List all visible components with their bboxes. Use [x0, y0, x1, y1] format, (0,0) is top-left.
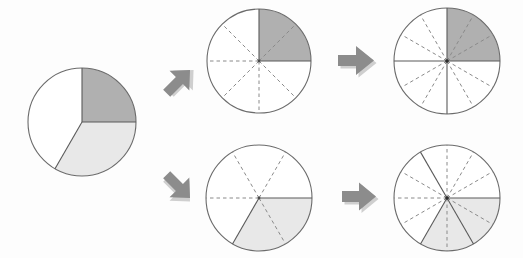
arrow-down-right-body	[157, 165, 200, 208]
top-middle-pie	[201, 3, 317, 119]
arrow-right-top-body	[338, 46, 374, 75]
figure-canvas	[0, 0, 523, 258]
arrow-right-bottom-body	[342, 183, 376, 211]
top-middle-pie-shaded-region	[259, 9, 311, 61]
arrow-up-right-icon	[156, 60, 200, 104]
bottom-right-pie	[388, 139, 506, 257]
arrow-down-right-icon	[156, 164, 200, 208]
arrow-up-right-body	[157, 60, 200, 103]
source-pie	[22, 62, 142, 182]
top-middle-pie-center-dot	[258, 60, 261, 63]
arrow-right-top-icon	[334, 40, 378, 82]
bottom-middle-pie	[201, 140, 319, 258]
source-pie-slice-dark	[82, 68, 136, 122]
bottom-right-pie-center-dot	[445, 196, 449, 200]
arrow-right-bottom-icon	[338, 177, 380, 217]
top-right-pie-center-dot	[445, 59, 449, 63]
top-right-pie	[388, 2, 506, 120]
bottom-middle-pie-center-dot	[258, 197, 261, 200]
